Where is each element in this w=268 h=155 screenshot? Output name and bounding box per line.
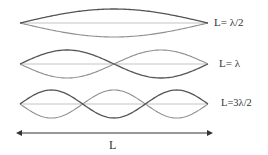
mode-1-envelope-dark (20, 9, 208, 23)
length-arrow (16, 130, 213, 136)
mode-3-wave (20, 90, 208, 118)
mode-1-label: L= λ/2 (214, 17, 244, 28)
length-label: L (109, 139, 116, 151)
mode-2-wave (20, 50, 208, 78)
arrowhead-left-icon (16, 130, 22, 136)
mode-2-label: L= λ (219, 58, 240, 69)
mode-1-envelope-light (20, 23, 208, 37)
mode-1-wave (20, 9, 208, 37)
arrowhead-right-icon (207, 130, 213, 136)
mode-3-label: L=3λ/2 (221, 98, 252, 109)
wave-modes (20, 9, 208, 118)
